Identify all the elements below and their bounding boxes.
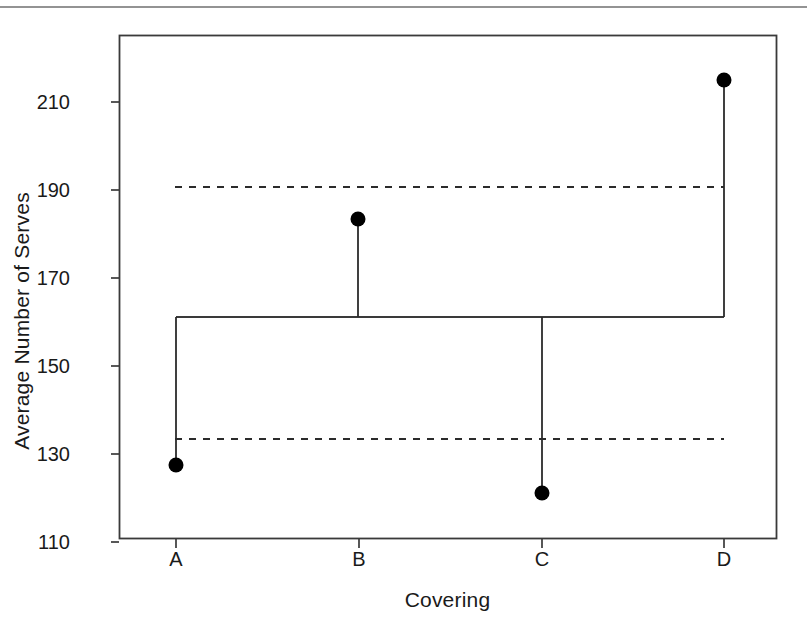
stem-lines: [176, 80, 724, 493]
plot-svg: [0, 0, 807, 642]
x-axis-ticks: [176, 539, 724, 548]
y-axis-ticks: [111, 102, 119, 542]
plot-frame: [120, 36, 777, 539]
data-point-a: [169, 458, 184, 473]
data-point-d: [717, 73, 732, 88]
chart-container: Average Number of Serves 210 190 170 150…: [0, 0, 807, 642]
data-points: [169, 73, 732, 501]
data-point-b: [351, 212, 366, 227]
data-point-c: [535, 486, 550, 501]
